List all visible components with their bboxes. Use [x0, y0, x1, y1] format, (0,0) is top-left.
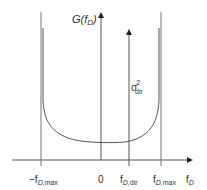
y-axis-label: G(fD) [72, 13, 97, 27]
tick-label-dir: fD,dir [120, 174, 138, 186]
doppler-spectrum-diagram: G(fD) σ2dir −fD,max 0 fD,dir fD,max fD [0, 0, 207, 190]
tick-label-pos-max: fD,max [153, 174, 177, 186]
tick-label-neg-max: −fD,max [29, 174, 58, 186]
x-axis-label: fD [186, 174, 194, 186]
direct-component-label: σ2dir [131, 79, 144, 95]
tick-label-zero: 0 [98, 174, 104, 185]
